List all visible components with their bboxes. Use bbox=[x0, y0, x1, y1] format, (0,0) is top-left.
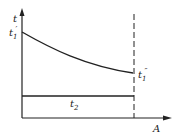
x-axis-arrow-icon bbox=[163, 116, 172, 121]
x-axis-label: A bbox=[152, 123, 160, 134]
y-axis-label: t bbox=[13, 13, 18, 24]
y-axis-arrow-icon bbox=[20, 8, 25, 16]
hot-fluid-curve bbox=[22, 32, 133, 73]
y-axis bbox=[20, 8, 25, 118]
temperature-area-diagram: t A t1′ t1″ t2 bbox=[0, 0, 180, 138]
t1-prime-label: t1′ bbox=[9, 24, 18, 41]
t1-double-prime-label: t1″ bbox=[138, 66, 148, 83]
t2-label: t2 bbox=[70, 98, 79, 112]
x-axis bbox=[22, 116, 172, 121]
